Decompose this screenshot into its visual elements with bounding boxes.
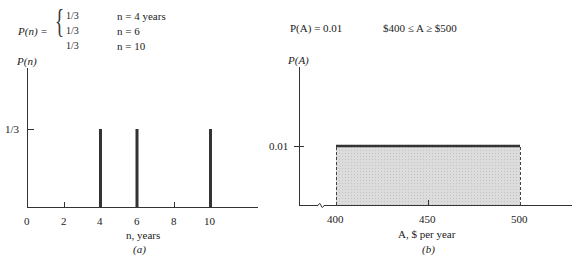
bars-a [99, 129, 212, 207]
bar-n10 [209, 129, 212, 207]
uniform-area [336, 146, 520, 205]
bar-n6 [136, 129, 139, 207]
bar-n4 [99, 129, 102, 207]
plot-canvas [0, 0, 581, 259]
axes-a [27, 68, 258, 208]
